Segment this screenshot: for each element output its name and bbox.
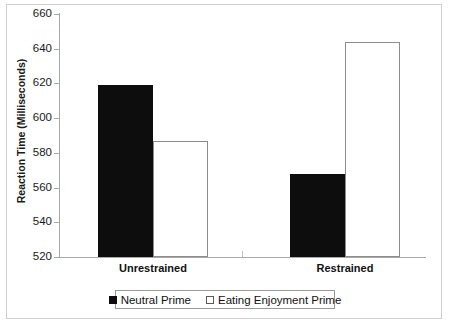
chart-legend: Neutral PrimeEating Enjoyment Prime (115, 290, 335, 309)
legend-label: Neutral Prime (121, 294, 191, 306)
y-axis-tick-label: 560 (18, 182, 52, 194)
y-axis-line (59, 13, 60, 258)
legend-entry[interactable]: Eating Enjoyment Prime (206, 294, 341, 306)
y-axis-tick-label: 620 (18, 77, 52, 89)
bar-unrestrained-eating-enjoyment-prime (153, 141, 208, 257)
chart-figure: Reaction Time (Milliseconds) 52054056058… (0, 0, 449, 325)
x-axis-category-label: Unrestrained (73, 262, 233, 274)
empty-white-square-icon (206, 296, 214, 304)
y-axis-tick-label: 660 (18, 8, 52, 20)
bar-restrained-neutral-prime (290, 174, 345, 257)
y-axis-tick-label: 540 (18, 216, 52, 228)
bar-unrestrained-neutral-prime (98, 85, 153, 257)
y-axis-tick-group: 520540560580600620640660 (0, 0, 52, 325)
y-axis-tick-label: 640 (18, 43, 52, 55)
legend-entry[interactable]: Neutral Prime (109, 294, 191, 306)
y-axis-tick-label: 520 (18, 251, 52, 263)
filled-black-square-icon (109, 296, 117, 304)
x-axis-separator-tick (242, 251, 243, 258)
legend-label: Eating Enjoyment Prime (218, 294, 341, 306)
bar-restrained-eating-enjoyment-prime (345, 42, 400, 257)
y-axis-tick-label: 580 (18, 147, 52, 159)
x-axis-category-label: Restrained (265, 262, 425, 274)
y-axis-tick-label: 600 (18, 112, 52, 124)
